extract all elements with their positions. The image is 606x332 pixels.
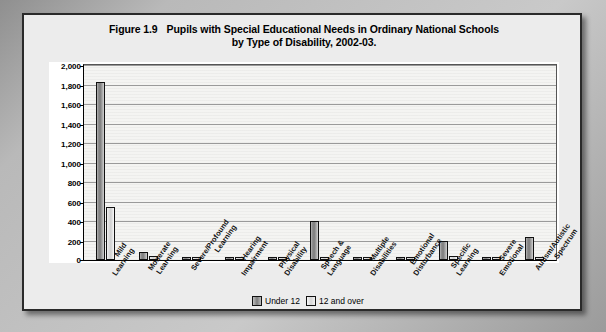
figure-title-text-1: Pupils with Special Educational Needs in… [167, 23, 499, 35]
legend-swatch-under-12 [252, 296, 262, 306]
figure-title-line-2: by Type of Disability, 2002-03. [34, 36, 574, 49]
y-axis-tick-label: 200 [68, 237, 81, 246]
legend-item-12-and-over: 12 and over [306, 296, 364, 306]
bar-group [139, 65, 158, 260]
bar-group [353, 65, 372, 260]
y-axis-tick-label: 800 [68, 179, 81, 188]
chart-bars-container [84, 65, 556, 260]
bar-group [310, 65, 329, 260]
figure-title-line-1: Figure 1.9Pupils with Special Educationa… [34, 23, 574, 36]
bar-under-12[interactable] [225, 257, 234, 260]
bar-group [268, 65, 287, 260]
figure-title: Figure 1.9Pupils with Special Educationa… [34, 23, 574, 49]
bar-group [482, 65, 501, 260]
chart-x-axis-labels: MildLearningModerateLearningSevere/Profo… [83, 265, 583, 325]
y-axis-tick-label: 1,200 [61, 140, 81, 149]
legend-swatch-12-and-over [306, 296, 316, 306]
y-axis-tick-label: 1,600 [61, 101, 81, 110]
bar-under-12[interactable] [268, 257, 277, 260]
bar-under-12[interactable] [310, 221, 319, 260]
legend-item-under-12: Under 12 [252, 296, 300, 306]
chart-legend: Under 12 12 and over [252, 296, 364, 306]
bar-under-12[interactable] [525, 237, 534, 260]
bar-under-12[interactable] [353, 257, 362, 260]
bar-under-12[interactable] [482, 257, 491, 260]
chart-plot-area: 02004006008001,0001,2001,4001,6001,8002,… [83, 64, 557, 261]
y-axis-tick-label: 600 [68, 198, 81, 207]
bar-group [525, 65, 544, 260]
figure-card: Figure 1.9Pupils with Special Educationa… [22, 13, 582, 311]
chart-plot-panel: 02004006008001,0001,2001,4001,6001,8002,… [49, 62, 559, 263]
y-axis-tick-label: 400 [68, 218, 81, 227]
legend-label-12-and-over: 12 and over [319, 296, 364, 306]
y-axis-tick-label: 2,000 [61, 62, 81, 71]
figure-outer-frame: Figure 1.9Pupils with Special Educationa… [0, 0, 606, 332]
y-axis-tick-label: 1,000 [61, 159, 81, 168]
bar-under-12[interactable] [396, 257, 405, 260]
bar-under-12[interactable] [182, 257, 191, 260]
y-axis-tick-label: 1,800 [61, 81, 81, 90]
bar-group [396, 65, 415, 260]
y-axis-tick-label: 1,400 [61, 120, 81, 129]
legend-label-under-12: Under 12 [265, 296, 300, 306]
bar-under-12[interactable] [96, 82, 105, 260]
figure-number: Figure 1.9 [109, 23, 158, 35]
y-axis-tick-mark [80, 260, 84, 261]
bar-group [182, 65, 201, 260]
bar-under-12[interactable] [139, 252, 148, 260]
bar-group [439, 65, 458, 260]
bar-group [96, 65, 115, 260]
